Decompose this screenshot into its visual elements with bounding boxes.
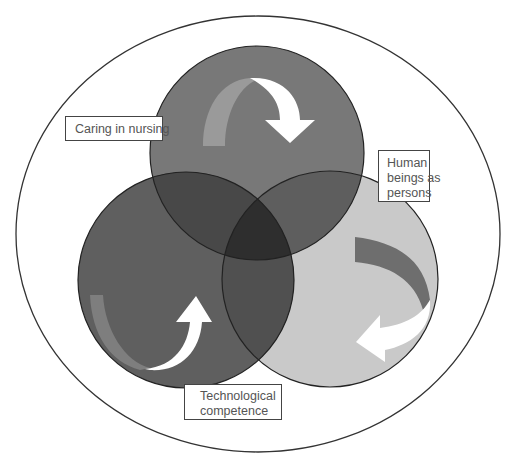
label-caring-in-nursing: Caring in nursing (65, 116, 163, 141)
label-human-line-1: Human (387, 156, 429, 171)
label-tech-line-1: Technological (200, 389, 281, 404)
label-human-line-3: persons (387, 186, 429, 201)
label-human-line-2: beings as (387, 171, 429, 186)
label-caring-line-1: Caring in nursing (75, 122, 162, 137)
label-human-beings-as-persons: Human beings as persons (378, 150, 430, 202)
label-technological-competence: Technological competence (184, 384, 282, 420)
label-tech-line-2: competence (200, 404, 281, 419)
